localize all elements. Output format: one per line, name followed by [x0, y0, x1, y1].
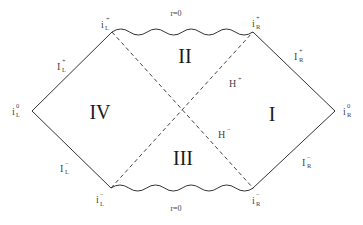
- horizon-label-future: H +: [229, 75, 242, 89]
- horizon-label-past: H −: [218, 126, 231, 140]
- edge-future-null-infinity-right: [253, 32, 335, 111]
- horizon-past-sup: −: [227, 126, 231, 133]
- I-L-plus-sub: L: [62, 66, 66, 73]
- i-R-zero-sub: R: [347, 111, 352, 118]
- i-L-plus-base: i: [101, 19, 104, 30]
- point-label-i-L-zero: i 0 L: [12, 102, 20, 118]
- point-label-i-R-plus: i + R: [252, 14, 261, 30]
- I-L-minus-sup: −: [65, 160, 69, 167]
- null-infinity-label-I-R-plus: I + R: [294, 47, 304, 63]
- point-label-i-L-minus: i − L: [96, 191, 104, 207]
- i-R-plus-base: i: [252, 18, 255, 29]
- penrose-diagram: IV II III I r=0 r=0 H + H − i + L i + R …: [0, 0, 363, 225]
- I-L-minus-sub: L: [65, 168, 69, 175]
- i-L-zero-sub: L: [16, 111, 20, 118]
- i-L-zero-sup: 0: [16, 102, 19, 109]
- singularity-top-wavy-line: [112, 29, 253, 35]
- horizon-future-base: H: [229, 78, 236, 89]
- horizon-future-sup: +: [238, 75, 242, 82]
- point-label-i-L-plus: i + L: [101, 15, 110, 31]
- region-label-II: II: [178, 45, 191, 67]
- null-infinity-label-I-L-plus: I + L: [57, 57, 66, 73]
- I-R-plus-base: I: [294, 51, 297, 62]
- I-L-plus-sup: +: [62, 57, 66, 64]
- I-R-minus-sub: R: [307, 162, 312, 169]
- i-R-minus-base: i: [252, 195, 255, 206]
- i-L-zero-base: i: [12, 106, 15, 117]
- i-R-zero-sup: 0: [347, 102, 350, 109]
- i-L-plus-sub: L: [105, 24, 109, 31]
- I-R-minus-sup: −: [307, 154, 311, 161]
- i-L-minus-sub: L: [100, 200, 104, 207]
- horizon-past-base: H: [218, 129, 225, 140]
- i-R-plus-sup: +: [256, 14, 260, 21]
- i-R-minus-sup: −: [256, 191, 260, 198]
- I-R-plus-sub: R: [299, 56, 304, 63]
- i-R-plus-sub: R: [256, 23, 261, 30]
- point-label-i-R-minus: i − R: [252, 191, 261, 207]
- edge-future-null-infinity-left: [32, 32, 112, 111]
- I-L-minus-base: I: [60, 163, 63, 174]
- null-infinity-label-I-R-minus: I − R: [302, 154, 312, 169]
- point-label-i-R-zero: i 0 R: [343, 102, 352, 118]
- singularity-label-top: r=0: [170, 9, 181, 18]
- I-R-plus-sup: +: [299, 47, 303, 54]
- i-L-plus-sup: +: [106, 15, 110, 22]
- null-infinity-label-I-L-minus: I − L: [60, 160, 69, 175]
- region-label-IV: IV: [89, 101, 111, 123]
- i-R-zero-base: i: [343, 106, 346, 117]
- i-R-minus-sub: R: [256, 200, 261, 207]
- i-L-minus-base: i: [96, 194, 99, 205]
- singularity-bottom-wavy-line: [111, 185, 253, 191]
- I-R-minus-base: I: [302, 157, 305, 168]
- region-label-III: III: [173, 147, 193, 169]
- region-label-I: I: [269, 103, 276, 125]
- edge-past-null-infinity-right: [253, 111, 335, 188]
- I-L-plus-base: I: [57, 61, 60, 72]
- i-L-minus-sup: −: [100, 191, 104, 198]
- singularity-label-bottom: r=0: [170, 204, 181, 213]
